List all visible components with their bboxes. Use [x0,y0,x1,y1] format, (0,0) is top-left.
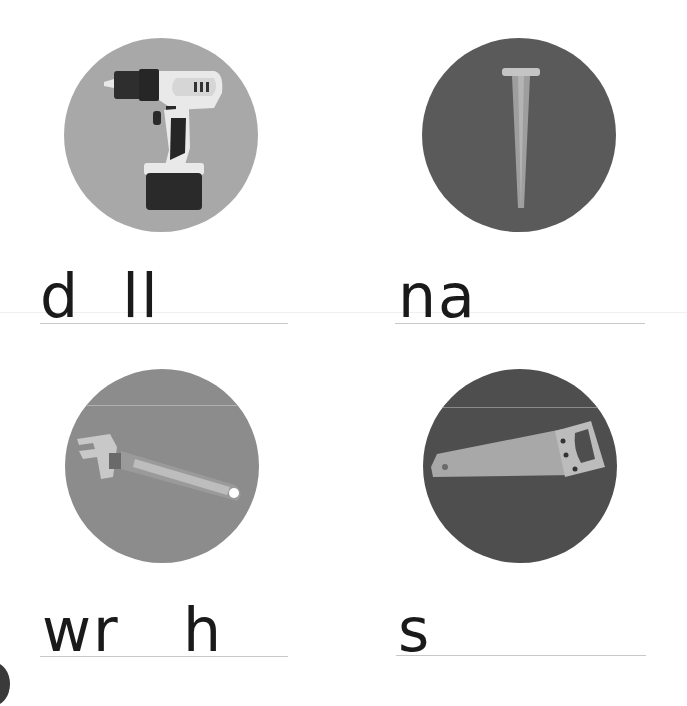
wrench-icon [65,369,259,563]
drill-icon [64,38,258,232]
nail-picture [422,38,616,232]
drill-picture [64,38,258,232]
saw-picture [423,369,617,563]
answer-line-nail[interactable] [395,323,645,324]
partial-word-saw: s [398,600,431,660]
answer-line-wrench[interactable] [40,656,288,657]
partial-word-drill: d ll [40,266,160,326]
answer-line-drill[interactable] [40,323,288,324]
partial-word-nail: na [398,266,477,326]
partial-word-wrench: wr h [42,600,223,660]
answer-line-saw[interactable] [396,655,646,656]
nail-icon [422,38,616,232]
wrench-picture [65,369,259,563]
page-corner-marker [0,662,10,706]
saw-icon [423,369,617,563]
